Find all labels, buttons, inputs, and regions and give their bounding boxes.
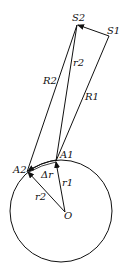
label-S2: S2	[72, 13, 85, 23]
label-A2: A2	[13, 165, 27, 175]
label-r2: r2	[35, 192, 46, 202]
label-tau2: r2	[73, 58, 84, 68]
diagram-canvas	[0, 0, 124, 267]
label-O: O	[64, 211, 72, 221]
label-delta-r: Δr	[41, 170, 53, 180]
label-R1: R1	[85, 92, 99, 102]
earth-circle	[10, 160, 112, 262]
line-tau2	[56, 25, 77, 161]
label-A1: A1	[60, 150, 74, 160]
label-R2: R2	[43, 76, 57, 86]
label-r1: r1	[62, 178, 73, 188]
arrow-S1-S2	[78, 25, 109, 36]
line-R1	[56, 36, 109, 161]
label-S1: S1	[107, 26, 120, 36]
